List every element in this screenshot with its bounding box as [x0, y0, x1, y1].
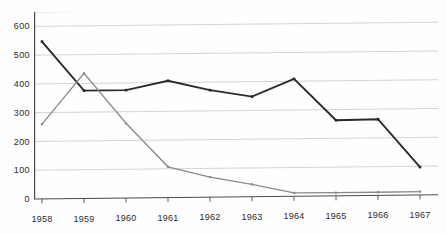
line-chart: · ·· · ··· ·· ··· · · 010020030040050060…: [0, 0, 446, 234]
data-point-marker: [419, 190, 421, 192]
x-axis-tick-labels: 1958195919601961196219631964196519661967: [34, 212, 438, 230]
data-point-marker: [209, 89, 212, 92]
x-axis-label: 1958: [31, 214, 52, 224]
x-axis-label: 1963: [241, 212, 262, 222]
data-point-marker: [167, 166, 169, 168]
data-point-marker: [293, 78, 296, 81]
y-axis-label: 100: [14, 166, 30, 175]
y-axis-label: 300: [14, 109, 30, 118]
plot-area: [34, 12, 438, 208]
y-axis-label: 400: [14, 80, 30, 89]
gridlines: [34, 12, 438, 199]
data-point-marker: [41, 123, 43, 125]
gridline: [34, 195, 438, 199]
data-point-marker: [377, 191, 379, 193]
data-point-marker: [125, 89, 128, 92]
y-axis-label: 200: [14, 138, 30, 147]
data-point-marker: [419, 166, 422, 169]
x-axis-label: 1961: [157, 213, 178, 223]
x-axis-label: 1964: [283, 211, 304, 221]
chart-canvas: [34, 12, 438, 208]
gridline: [34, 80, 438, 84]
data-point-marker: [125, 122, 127, 124]
series-line-series-dark: [42, 42, 420, 168]
data-point-marker: [377, 118, 380, 121]
data-point-marker: [41, 40, 44, 43]
data-point-marker: [335, 192, 337, 194]
data-point-marker: [251, 95, 254, 98]
gridline: [34, 166, 438, 170]
x-axis-label: 1965: [325, 211, 346, 221]
data-point-marker: [335, 119, 338, 122]
data-point-marker: [251, 183, 253, 185]
x-axis-label: 1967: [409, 210, 430, 220]
x-axis-ticks: [42, 195, 420, 203]
data-series: [41, 40, 422, 194]
series-line-series-gray: [42, 73, 420, 193]
x-axis-label: 1960: [115, 213, 136, 223]
clipped-title-remnant: · ·· · ··· ·· ··· · ·: [92, 0, 262, 1]
gridline: [34, 22, 438, 26]
data-point-marker: [83, 72, 85, 74]
data-point-marker: [293, 192, 295, 194]
gridline: [34, 137, 438, 141]
y-axis-label: 0: [25, 195, 30, 204]
x-axis-label: 1962: [199, 212, 220, 222]
y-axis-tick-labels: 0100200300400500600: [0, 12, 30, 208]
data-point-marker: [83, 89, 86, 92]
y-axis-label: 600: [14, 22, 30, 31]
gridline: [34, 51, 438, 55]
data-point-marker: [167, 80, 170, 83]
y-axis-label: 500: [14, 51, 30, 60]
x-axis-label: 1966: [367, 210, 388, 220]
gridline: [34, 108, 438, 112]
x-axis-label: 1959: [73, 214, 94, 224]
data-point-marker: [209, 176, 211, 178]
